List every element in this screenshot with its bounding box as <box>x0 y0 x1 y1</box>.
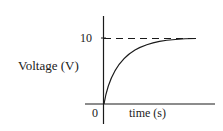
voltage-time-chart: 10 Voltage (V) 0 time (s) <box>0 0 223 131</box>
charging-curve <box>104 39 196 105</box>
y-tick-label-10: 10 <box>80 31 92 45</box>
y-axis-label: Voltage (V) <box>18 58 79 73</box>
x-axis-label: time (s) <box>129 106 166 120</box>
origin-label: 0 <box>92 106 98 120</box>
